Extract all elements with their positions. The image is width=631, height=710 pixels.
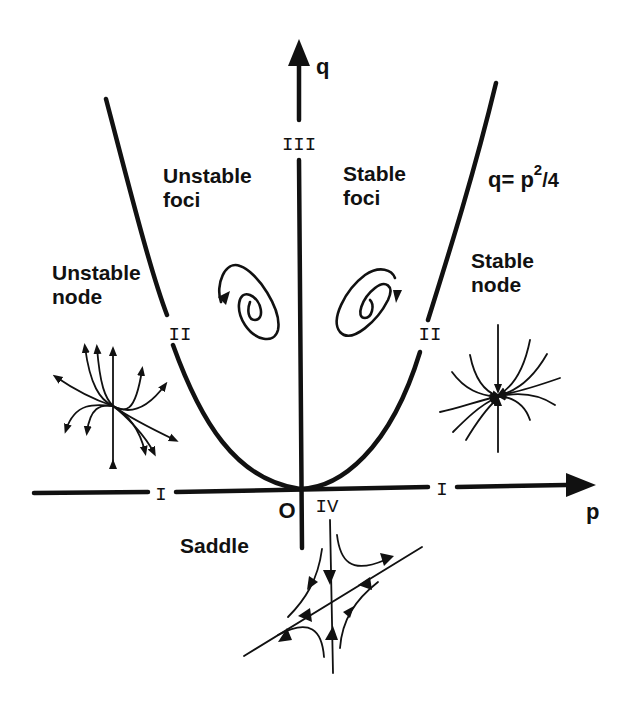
stable-focus-spiral-icon <box>337 269 402 335</box>
unstable-node-label: Unstable node <box>52 261 147 308</box>
saddle-label: Saddle <box>180 534 249 557</box>
roman-label-top: III <box>282 134 316 156</box>
roman-label-below-origin: IV <box>316 496 339 518</box>
q-axis-arrowhead-icon <box>288 39 310 66</box>
stable-node-label: Stable node <box>471 249 540 296</box>
q-axis <box>288 39 310 548</box>
stable-foci-label: Stable foci <box>343 162 412 209</box>
roman-label-left-curve: II <box>169 324 192 346</box>
roman-label-right-curve: II <box>419 324 442 346</box>
origin-label: O <box>278 498 295 523</box>
roman-label-left-axis: I <box>155 484 166 506</box>
phase-portrait-diagram: III II II I I IV q p O q= p2/4 Unstable … <box>0 0 631 710</box>
stable-node-portrait-icon <box>440 325 560 452</box>
svg-text:q= p2/4: q= p2/4 <box>488 161 560 192</box>
parabola-equation: q= p2/4 <box>488 161 560 192</box>
saddle-portrait-icon <box>244 520 422 673</box>
roman-label-right-axis: I <box>436 479 447 501</box>
p-axis-arrowhead-icon <box>566 473 596 497</box>
q-axis-label: q <box>316 54 329 79</box>
unstable-focus-spiral-icon <box>218 265 278 339</box>
p-axis-label: p <box>586 499 599 524</box>
unstable-foci-label: Unstable foci <box>163 164 258 211</box>
unstable-node-portrait-icon <box>56 347 175 463</box>
